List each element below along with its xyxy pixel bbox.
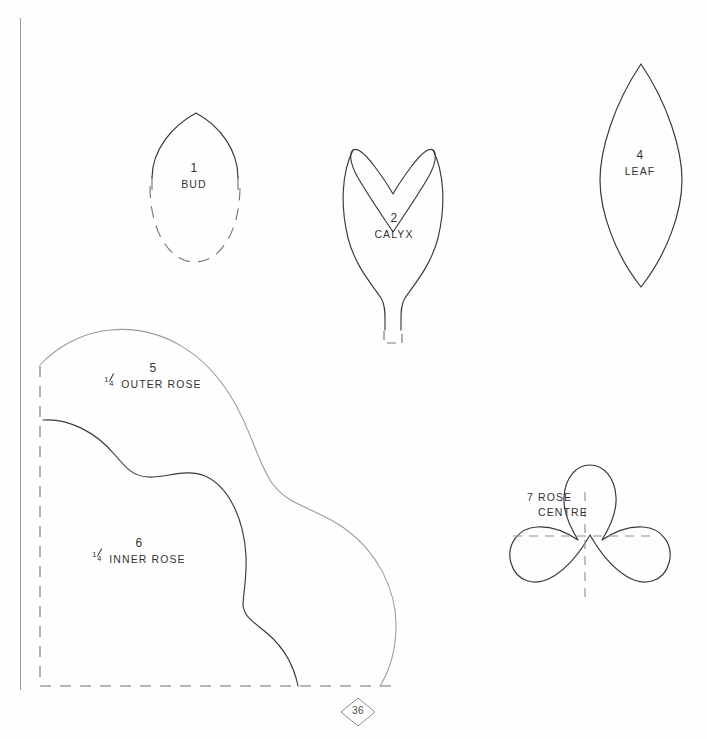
piece-calyx-outline: [343, 149, 443, 343]
label-rose-centre-line1: 7 ROSE: [527, 490, 617, 505]
label-outer-rose-name: 14 OUTER ROSE: [93, 377, 213, 392]
pattern-sheet-page: 1 BUD 2 CALYX 4 LEAF 5 14 OUTER ROSE 6 1…: [0, 0, 707, 739]
label-outer-rose: 5 14 OUTER ROSE: [93, 360, 213, 393]
label-inner-rose-name: 14 INNER ROSE: [79, 552, 199, 567]
label-calyx: 2 CALYX: [344, 210, 444, 243]
label-bud: 1 BUD: [144, 160, 244, 193]
fraction-one-quarter-glyph: 14: [104, 378, 117, 389]
page-number: 36: [352, 705, 364, 716]
label-calyx-number: 2: [344, 210, 444, 227]
piece-rose-centre-outline: [510, 448, 670, 600]
label-rose-centre: 7 ROSE CENTRE: [527, 490, 617, 520]
label-bud-name: BUD: [144, 177, 244, 192]
label-calyx-name: CALYX: [344, 227, 444, 242]
label-leaf-name: LEAF: [590, 164, 690, 179]
label-leaf: 4 LEAF: [590, 147, 690, 180]
label-inner-rose: 6 14 INNER ROSE: [79, 535, 199, 568]
label-rose-centre-line2: CENTRE: [527, 505, 617, 520]
fraction-one-quarter-glyph: 14: [92, 553, 105, 564]
label-bud-number: 1: [144, 160, 244, 177]
label-leaf-number: 4: [590, 147, 690, 164]
